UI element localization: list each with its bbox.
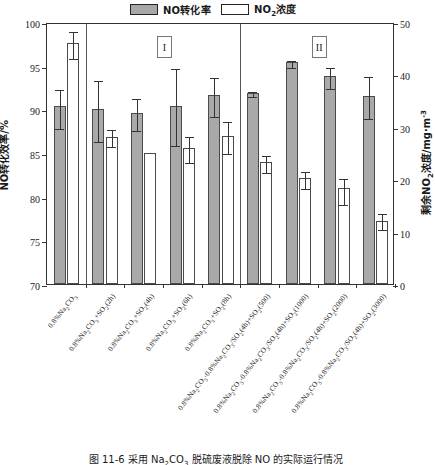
group-separator (86, 24, 87, 284)
legend-item-no-conversion: NO转化率 (130, 2, 211, 17)
error-bar-no2-concentration-cap (378, 230, 387, 231)
y-tick-left (42, 155, 47, 156)
error-bar-no-conversion (60, 90, 61, 129)
error-bar-no-conversion-cap (94, 142, 103, 143)
region-label-i: I (157, 36, 172, 58)
error-bar-no2-concentration (344, 179, 345, 206)
error-bar-no-conversion-cap (94, 81, 103, 82)
error-bar-no-conversion-cap (210, 117, 219, 118)
error-bar-no-conversion (98, 81, 99, 142)
y-tick-label-left: 90 (30, 106, 40, 117)
y-tick-label-right: 20 (400, 176, 410, 187)
error-bar-no2-concentration (305, 172, 306, 189)
x-tick (279, 284, 280, 288)
bar-no-conversion (54, 106, 66, 284)
region-label-ii: II (312, 36, 327, 58)
bar-no-conversion (286, 62, 298, 284)
error-bar-no-conversion-cap (171, 146, 180, 147)
error-bar-no2-concentration-cap (378, 214, 387, 215)
error-bar-no-conversion-cap (55, 90, 64, 91)
error-bar-no-conversion (176, 69, 177, 146)
y-tick-label-left: 80 (30, 193, 40, 204)
error-bar-no2-concentration (228, 122, 229, 154)
error-bar-no-conversion (330, 68, 331, 89)
error-bar-no2-concentration-cap (301, 189, 310, 190)
error-bar-no2-concentration-cap (223, 122, 232, 123)
error-bar-no-conversion-cap (326, 68, 335, 69)
error-bar-no-conversion-cap (248, 92, 257, 93)
error-bar-no2-concentration-cap (223, 154, 232, 155)
error-bar-no2-concentration-cap (107, 147, 116, 148)
y-tick-label-right: 0 (400, 281, 405, 292)
bar-no2-concentration (183, 148, 195, 284)
x-tick (163, 284, 164, 288)
bar-no-conversion (131, 113, 143, 284)
error-bar-no2-concentration (189, 137, 190, 163)
y-tick-left (42, 242, 47, 243)
error-bar-no-conversion (137, 99, 138, 130)
error-bar-no2-concentration-cap (107, 130, 116, 131)
chart-legend: NO转化率 NO2浓度 (130, 1, 360, 17)
y-tick-right (393, 181, 398, 182)
bar-no2-concentration (144, 153, 156, 284)
error-bar-no2-concentration-cap (339, 179, 348, 180)
figure-caption: 图 11-6 采用 Na2CO3 脱硫废液脱除 NO 的实际运行情况 (0, 451, 432, 465)
error-bar-no2-concentration (73, 32, 74, 58)
y-tick-label-right: 30 (400, 123, 410, 134)
bar-no2-concentration (260, 162, 272, 284)
error-bar-no-conversion-cap (287, 68, 296, 69)
x-tick (240, 284, 241, 288)
y-axis-title-left: NO转化效率/% (0, 120, 11, 191)
y-tick-right (393, 234, 398, 235)
bar-no-conversion (363, 96, 375, 284)
bar-no2-concentration (222, 136, 234, 284)
legend-label-no2-concentration: NO2浓度 (254, 1, 297, 18)
y-tick-left (42, 24, 47, 25)
error-bar-no2-concentration (382, 214, 383, 230)
y-tick-right (393, 24, 398, 25)
error-bar-no-conversion-cap (326, 89, 335, 90)
y-tick-right (393, 129, 398, 130)
error-bar-no-conversion-cap (210, 78, 219, 79)
legend-label-no-conversion: NO转化率 (163, 2, 211, 17)
group-separator (240, 24, 241, 284)
error-bar-no-conversion-cap (287, 61, 296, 62)
legend-swatch-hollow (221, 4, 249, 15)
error-bar-no-conversion-cap (364, 119, 373, 120)
y-tick-left (42, 199, 47, 200)
error-bar-no2-concentration-cap (185, 137, 194, 138)
error-bar-no2-concentration-cap (185, 163, 194, 164)
error-bar-no2-concentration-cap (339, 205, 348, 206)
bar-no2-concentration (67, 43, 79, 284)
error-bar-no2-concentration (266, 156, 267, 173)
x-tick (86, 284, 87, 288)
error-bar-no-conversion-cap (55, 129, 64, 130)
error-bar-no2-concentration (112, 130, 113, 146)
y-tick-label-left: 95 (30, 62, 40, 73)
error-bar-no2-concentration-cap (301, 172, 310, 173)
bar-no-conversion (247, 93, 259, 284)
error-bar-no2-concentration-cap (262, 156, 271, 157)
x-tick (318, 284, 319, 288)
x-tick (202, 284, 203, 288)
bar-no-conversion (324, 76, 336, 284)
error-bar-no-conversion-cap (132, 131, 141, 132)
error-bar-no-conversion-cap (248, 97, 257, 98)
error-bar-no2-concentration-cap (262, 173, 271, 174)
error-bar-no-conversion-cap (132, 99, 141, 100)
y-tick-left (42, 68, 47, 69)
legend-item-no2-concentration: NO2浓度 (221, 1, 297, 18)
x-tick (395, 284, 396, 288)
y-tick-label-left: 100 (25, 19, 40, 30)
y-tick-label-right: 50 (400, 19, 410, 30)
error-bar-no2-concentration-cap (69, 32, 78, 33)
plot-area: 70758085909510001020304050III (46, 23, 394, 285)
y-tick-label-left: 75 (30, 237, 40, 248)
x-tick (356, 284, 357, 288)
error-bar-no2-concentration-cap (69, 59, 78, 60)
error-bar-no-conversion (214, 78, 215, 116)
y-tick-label-right: 10 (400, 228, 410, 239)
y-tick-right (393, 76, 398, 77)
x-axis-label: 0.8%Na2CO3 (46, 292, 79, 331)
